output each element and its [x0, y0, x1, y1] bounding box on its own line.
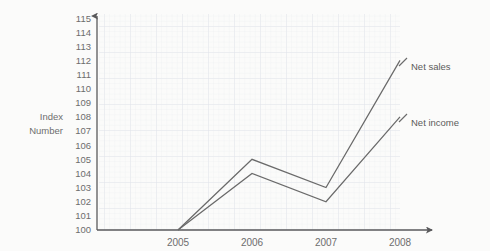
- y-tick-label: 106: [75, 140, 91, 151]
- y-tick-label: 103: [75, 182, 91, 193]
- y-tick-label: 100: [75, 224, 91, 235]
- y-tick-label: 112: [76, 55, 91, 66]
- y-tick-label: 114: [76, 27, 91, 38]
- y-tick-label: 110: [76, 83, 91, 94]
- x-tick-label: 2006: [241, 237, 264, 248]
- chart-canvas: 115 114 113 112 111 110 109 108 107 106 …: [0, 0, 490, 251]
- y-tick-label: 102: [75, 196, 91, 207]
- y-tick-label: 113: [76, 41, 91, 52]
- x-tick-label: 2008: [389, 237, 412, 248]
- y-tick-label: 108: [75, 111, 91, 122]
- y-axis-title-line2: Number: [29, 125, 63, 136]
- x-tick-label: 2005: [167, 237, 190, 248]
- y-tick-label: 111: [77, 69, 91, 80]
- y-tick-label: 105: [75, 154, 91, 165]
- line-chart: 115 114 113 112 111 110 109 108 107 106 …: [0, 0, 490, 251]
- x-tick-label: 2007: [315, 237, 338, 248]
- series-label-net-income: Net income: [411, 117, 459, 128]
- y-tick-label: 101: [75, 210, 91, 221]
- series-label-net-sales: Net sales: [411, 61, 451, 72]
- y-axis-title-line1: Index: [40, 111, 63, 122]
- plot-grid: [99, 14, 400, 230]
- y-tick-label: 104: [75, 168, 91, 179]
- y-tick-label: 109: [75, 97, 91, 108]
- y-tick-label: 115: [76, 13, 91, 24]
- y-tick-label: 107: [75, 125, 91, 136]
